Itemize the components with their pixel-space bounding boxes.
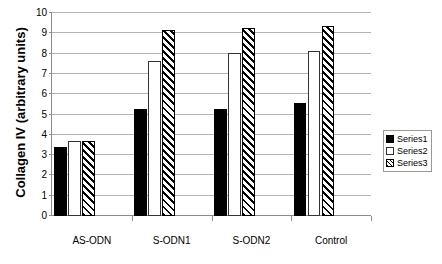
x-axis-label-control: Control (291, 235, 371, 246)
legend-label: Series3 (397, 159, 428, 168)
y-tick-label: 4 (41, 130, 47, 140)
bar-group-control: Control (291, 13, 371, 216)
bar-group-s-odn2: S-ODN2 (212, 13, 292, 216)
legend: Series1Series2Series3 (383, 130, 432, 172)
y-tick-label: 1 (41, 191, 47, 201)
legend-swatch-icon-series2 (386, 147, 394, 155)
legend-label: Series1 (397, 135, 428, 144)
legend-item-series1[interactable]: Series1 (386, 133, 428, 145)
bar-group-as-odn: AS-ODN (52, 13, 132, 216)
y-tick-label: 7 (41, 69, 47, 79)
bar-control-series1 (294, 103, 307, 216)
bar-s-odn2-series1 (214, 109, 227, 216)
bar-control-series2 (308, 51, 321, 216)
y-tick-label: 8 (41, 49, 47, 59)
y-tick-label: 3 (41, 150, 47, 160)
category-tick (212, 216, 213, 221)
y-tick-label: 0 (41, 211, 47, 221)
bar-as-odn-series3 (82, 141, 95, 216)
bar-control-series3 (322, 26, 335, 216)
y-tick-label: 10 (36, 8, 47, 18)
x-axis-label-as-odn: AS-ODN (52, 235, 132, 246)
bar-s-odn2-series3 (242, 28, 255, 216)
legend-item-series3[interactable]: Series3 (386, 157, 428, 169)
bar-s-odn2-series2 (228, 53, 241, 216)
bar-s-odn1-series1 (134, 109, 147, 216)
bar-chart: Collagen IV (arbitrary units) 0123456789… (0, 0, 442, 264)
legend-item-series2[interactable]: Series2 (386, 145, 428, 157)
category-tick (291, 216, 292, 221)
y-tick-label: 2 (41, 170, 47, 180)
bar-groups: AS-ODNS-ODN1S-ODN2Control (52, 13, 371, 216)
bar-s-odn1-series3 (162, 30, 175, 216)
legend-swatch-icon-series3 (386, 159, 394, 167)
category-tick (371, 216, 372, 221)
bar-as-odn-series1 (54, 147, 67, 216)
legend-swatch-icon-series1 (386, 135, 394, 143)
plot-area: 012345678910 AS-ODNS-ODN1S-ODN2Control (51, 13, 371, 216)
y-tick-label: 9 (41, 28, 47, 38)
bar-as-odn-series2 (68, 141, 81, 216)
x-axis-label-s-odn2: S-ODN2 (212, 235, 292, 246)
legend-label: Series2 (397, 147, 428, 156)
y-tick-label: 5 (41, 110, 47, 120)
y-axis-title: Collagen IV (arbitrary units) (13, 3, 28, 223)
y-tick-label: 6 (41, 89, 47, 99)
category-tick (132, 216, 133, 221)
bar-group-s-odn1: S-ODN1 (132, 13, 212, 216)
bar-s-odn1-series2 (148, 61, 161, 216)
x-axis-label-s-odn1: S-ODN1 (132, 235, 212, 246)
